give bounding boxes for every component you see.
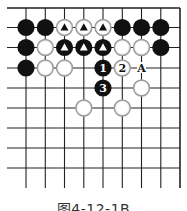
move-number: 1	[99, 62, 107, 75]
black-stone-triangle-marked	[56, 39, 73, 56]
figure-caption: 图4-12-1B	[0, 201, 187, 211]
white-stone	[37, 60, 53, 76]
white-stone	[37, 40, 53, 56]
black-stone	[17, 39, 34, 56]
white-stone-triangle-marked	[57, 20, 73, 36]
white-stone	[114, 40, 130, 56]
white-stone	[134, 40, 150, 56]
black-stone-triangle-marked	[75, 39, 92, 56]
white-stone	[76, 100, 92, 116]
board-grid	[7, 8, 180, 188]
white-stone-move-2: 2	[114, 60, 130, 76]
white-stone-triangle-marked	[95, 20, 111, 36]
white-stone-triangle-marked	[76, 20, 92, 36]
white-stone	[134, 80, 150, 96]
black-stone	[17, 59, 34, 76]
move-number: 2	[118, 62, 126, 75]
move-number: 3	[99, 82, 107, 95]
black-stone	[152, 39, 169, 56]
white-stone	[57, 60, 73, 76]
black-stone	[133, 19, 150, 36]
black-stone	[37, 19, 54, 36]
black-stone-move-3: 3	[94, 79, 111, 96]
black-stone-move-1: 1	[94, 59, 111, 76]
black-stone	[152, 19, 169, 36]
black-stone-triangle-marked	[94, 39, 111, 56]
svg-text:A: A	[136, 62, 146, 75]
point-label-a: A	[136, 62, 146, 75]
black-stone	[114, 19, 131, 36]
white-stone	[114, 100, 130, 116]
go-board-diagram: 123 A	[0, 0, 187, 200]
black-stone	[17, 19, 34, 36]
board-point-labels: A	[136, 62, 146, 75]
